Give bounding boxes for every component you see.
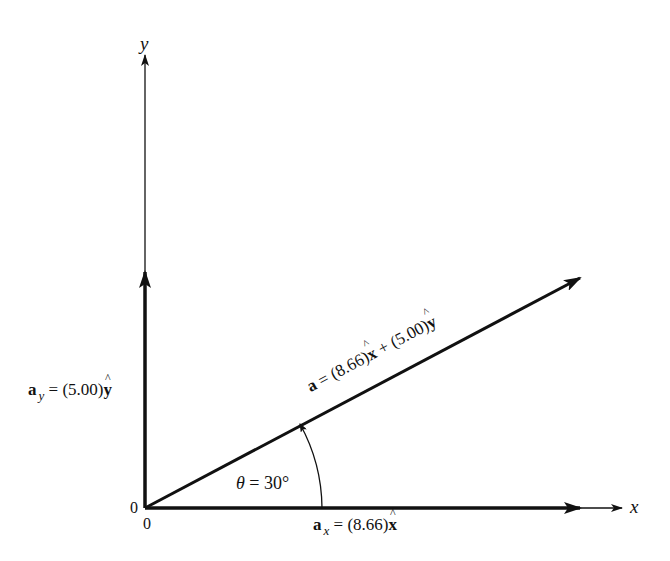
component-y-coeff: (5.00)	[62, 380, 103, 399]
y-hat-unit: y	[103, 381, 112, 398]
angle-value: 30°	[264, 473, 289, 493]
vector-diagram-canvas	[0, 0, 670, 561]
component-y-subscript: y	[39, 388, 45, 403]
origin-label-bottom: 0	[143, 516, 151, 532]
y-axis-label: y	[140, 34, 148, 53]
component-x-label: ax = (8.66)x	[313, 516, 397, 533]
component-y-equals: =	[49, 380, 59, 399]
component-x-subscript: x	[324, 523, 330, 538]
component-y-label: ay = (5.00)y	[28, 381, 112, 398]
component-x-equals: =	[334, 515, 344, 534]
x-hat-unit: x	[388, 516, 397, 533]
component-x-coeff: (8.66)	[347, 515, 388, 534]
angle-arc	[300, 424, 322, 508]
theta-symbol: θ	[236, 473, 245, 493]
angle-label: θ = 30°	[236, 474, 289, 492]
origin-label-left: 0	[130, 500, 138, 516]
component-x-symbol: a	[313, 515, 322, 534]
vector-a	[145, 278, 580, 508]
component-y-symbol: a	[28, 380, 37, 399]
x-axis-label: x	[630, 497, 638, 516]
angle-equals: =	[249, 473, 259, 493]
